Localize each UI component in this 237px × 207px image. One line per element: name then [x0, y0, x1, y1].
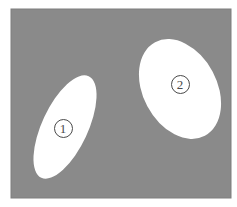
- figure-canvas: 1 2: [0, 0, 237, 207]
- figure-graphic: [0, 0, 237, 207]
- region-label-1: 1: [54, 119, 73, 138]
- region-label-2: 2: [171, 75, 190, 94]
